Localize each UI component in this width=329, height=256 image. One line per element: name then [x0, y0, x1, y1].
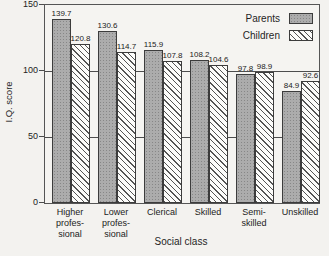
x-tick-label-4: Semi-skilled	[241, 207, 266, 229]
bar-children-2	[163, 61, 182, 203]
bar-children-1	[117, 52, 136, 203]
bar-children-3	[209, 65, 228, 203]
legend-label-parents: Parents	[246, 13, 280, 24]
bar-parents-1	[98, 31, 117, 203]
plot-area: 139.7120.8130.6114.7115.9107.8108.2104.6…	[44, 4, 320, 204]
value-label-parents-4: 97.8	[238, 64, 254, 74]
value-label-parents-2: 115.9	[144, 40, 163, 50]
y-tick-label-0: 0	[0, 197, 38, 208]
x-tick-label-line: sional	[56, 229, 84, 240]
value-label-children-5: 92.6	[303, 71, 319, 81]
x-tick-label-2: Clerical	[147, 207, 177, 218]
value-label-children-4: 98.9	[257, 62, 273, 72]
y-tick-label-100: 100	[0, 65, 38, 76]
bar-children-5	[301, 81, 320, 203]
iq-score-bar-chart-figure: I.Q. score 050100150 139.7120.8130.6114.…	[0, 0, 329, 256]
x-tick-label-line: Higher	[56, 207, 84, 218]
x-tick-label-5: Unskilled	[282, 207, 319, 218]
x-tick-label-1: Lowerprofes-sional	[102, 207, 130, 240]
value-label-children-3: 104.6	[208, 55, 228, 65]
y-tick-label-150: 150	[0, 0, 38, 10]
legend-swatch-parents-icon	[289, 13, 313, 24]
x-tick-label-line: Skilled	[195, 207, 222, 218]
x-tick-label-line: Clerical	[147, 207, 177, 218]
x-tick-label-line: Lower	[102, 207, 130, 218]
legend-item-parents: Parents	[243, 13, 313, 24]
x-tick-label-3: Skilled	[195, 207, 222, 218]
bar-parents-0	[52, 19, 71, 203]
legend-label-children: Children	[243, 30, 280, 41]
legend-item-children: Children	[243, 30, 313, 41]
value-label-children-2: 107.8	[162, 51, 182, 61]
x-tick-label-line: skilled	[241, 218, 266, 229]
value-label-children-1: 114.7	[117, 42, 136, 52]
value-label-children-0: 120.8	[70, 34, 90, 44]
value-label-parents-1: 130.6	[97, 21, 117, 31]
x-tick-label-line: profes-	[102, 218, 130, 229]
value-label-parents-5: 84.9	[284, 81, 300, 91]
legend-swatch-children-icon	[289, 30, 313, 41]
bar-parents-4	[236, 74, 255, 203]
x-axis-title: Social class	[155, 236, 208, 247]
x-tick-label-0: Higherprofes-sional	[56, 207, 84, 240]
x-tick-label-line: Semi-	[241, 207, 266, 218]
legend: Parents Children	[243, 13, 313, 47]
x-tick-label-line: Unskilled	[282, 207, 319, 218]
x-tick-label-line: sional	[102, 229, 130, 240]
value-label-parents-0: 139.7	[51, 9, 71, 19]
x-tick-label-line: profes-	[56, 218, 84, 229]
bar-parents-3	[190, 60, 209, 203]
bar-parents-2	[144, 50, 163, 203]
y-axis-title: I.Q. score	[3, 66, 15, 138]
bar-children-4	[255, 72, 274, 203]
y-tick-label-50: 50	[0, 131, 38, 142]
bar-parents-5	[282, 91, 301, 203]
value-label-parents-3: 108.2	[189, 50, 209, 60]
bar-children-0	[71, 44, 90, 203]
